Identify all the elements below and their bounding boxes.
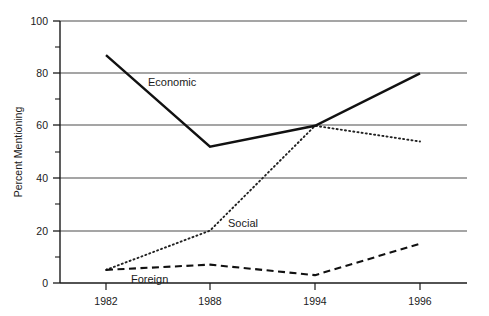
y-tick-label-0: 0 <box>42 277 48 289</box>
y-tick-label-60: 60 <box>36 119 48 131</box>
x-tick-label-1994: 1994 <box>303 295 327 307</box>
x-tick-label-1996: 1996 <box>408 295 432 307</box>
series-label-social: Social <box>228 217 258 229</box>
y-tick-label-40: 40 <box>36 172 48 184</box>
y-tick-label-20: 20 <box>36 225 48 237</box>
x-tick-label-1982: 1982 <box>94 295 118 307</box>
line-chart: 100 80 60 40 20 0 1982 1988 1994 1996 Pe… <box>0 0 489 316</box>
series-label-economic: Economic <box>148 76 197 88</box>
y-axis-title: Percent Mentioning <box>12 107 24 198</box>
chart-canvas: 100 80 60 40 20 0 1982 1988 1994 1996 Pe… <box>0 0 489 316</box>
x-tick-label-1988: 1988 <box>198 295 222 307</box>
series-label-foreign: Foreign <box>131 273 168 285</box>
y-tick-label-100: 100 <box>30 15 48 27</box>
y-tick-label-80: 80 <box>36 67 48 79</box>
